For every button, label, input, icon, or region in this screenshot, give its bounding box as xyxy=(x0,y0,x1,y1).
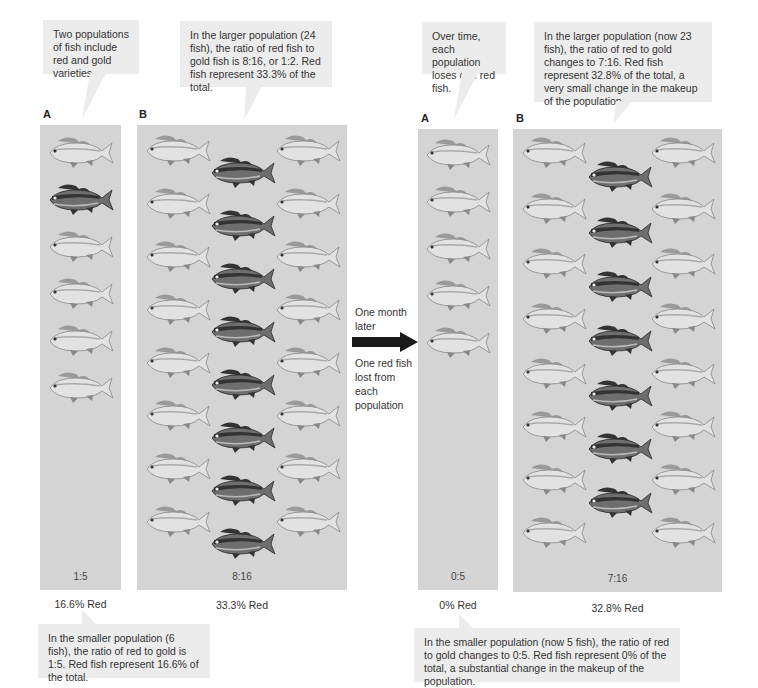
callout-intro-before: Two populations of fish include red and … xyxy=(43,20,139,74)
gold-fish-icon xyxy=(648,515,718,549)
ratio-label: 8:16 xyxy=(137,571,347,582)
gold-fish-icon xyxy=(273,398,343,432)
gold-fish-icon xyxy=(143,186,213,220)
gold-fish-icon xyxy=(648,356,718,390)
callout-pointer xyxy=(240,86,270,122)
right-arrow-icon xyxy=(352,332,418,352)
gold-fish-icon xyxy=(519,191,589,225)
gold-fish-icon xyxy=(273,292,343,326)
red-fish-icon xyxy=(208,367,278,401)
gold-fish-icon xyxy=(423,278,493,312)
red-fish-icon xyxy=(208,526,278,560)
gold-fish-icon xyxy=(143,133,213,167)
gold-fish-icon xyxy=(519,135,589,169)
gold-fish-icon xyxy=(273,239,343,273)
red-fish-icon xyxy=(585,215,655,249)
red-fish-icon xyxy=(46,182,116,216)
gold-fish-icon xyxy=(143,345,213,379)
gold-fish-icon xyxy=(46,229,116,263)
population-a-before-panel: 1:5 xyxy=(40,125,121,590)
gold-fish-icon xyxy=(273,504,343,538)
gold-fish-icon xyxy=(519,515,589,549)
percent-red-label: 33.3% Red xyxy=(137,599,347,611)
gold-fish-icon xyxy=(273,186,343,220)
gold-fish-icon xyxy=(143,239,213,273)
red-fish-icon xyxy=(585,485,655,519)
ratio-label: 0:5 xyxy=(418,571,498,582)
gold-fish-icon xyxy=(423,184,493,218)
population-b-before-panel: 8:16 xyxy=(137,125,347,590)
gold-fish-icon xyxy=(648,191,718,225)
callout-small-before-text: In the smaller population (6 fish), the … xyxy=(48,632,199,683)
panel-b-after-letter: B xyxy=(516,112,524,124)
red-fish-icon xyxy=(208,208,278,242)
ratio-label: 1:5 xyxy=(40,571,121,582)
gold-fish-icon xyxy=(273,133,343,167)
red-fish-icon xyxy=(585,323,655,357)
population-b-after-panel: 7:16 xyxy=(513,129,722,592)
gold-fish-icon xyxy=(519,462,589,496)
callout-large-after: In the larger population (now 23 fish), … xyxy=(534,22,712,102)
transition-bottom-text: One red fish lost from each population xyxy=(355,356,415,412)
panel-a-before-letter: A xyxy=(43,108,51,120)
callout-pointer xyxy=(78,73,108,121)
red-fish-icon xyxy=(585,269,655,303)
gold-fish-icon xyxy=(46,323,116,357)
gold-fish-icon xyxy=(519,356,589,390)
gold-fish-icon xyxy=(143,504,213,538)
gold-fish-icon xyxy=(143,451,213,485)
callout-pointer xyxy=(612,101,642,125)
red-fish-icon xyxy=(585,378,655,412)
callout-large-after-text: In the larger population (now 23 fish), … xyxy=(544,30,698,107)
gold-fish-icon xyxy=(648,135,718,169)
gold-fish-icon xyxy=(46,276,116,310)
gold-fish-icon xyxy=(46,135,116,169)
transition-top-text: One month later xyxy=(355,305,415,333)
callout-small-before: In the smaller population (6 fish), the … xyxy=(38,624,210,678)
red-fish-icon xyxy=(208,420,278,454)
callout-intro-before-text: Two populations of fish include red and … xyxy=(53,28,129,79)
gold-fish-icon xyxy=(423,137,493,171)
callout-pointer xyxy=(450,73,480,121)
callout-intro-after: Over time, each population loses one red… xyxy=(422,22,506,74)
gold-fish-icon xyxy=(648,409,718,443)
red-fish-icon xyxy=(585,159,655,193)
gold-fish-icon xyxy=(423,325,493,359)
callout-large-before: In the larger population (24 fish), the … xyxy=(180,21,332,87)
callout-small-after: In the smaller population (now 5 fish), … xyxy=(414,628,680,682)
gold-fish-icon xyxy=(519,409,589,443)
percent-red-label: 16.6% Red xyxy=(40,598,121,610)
gold-fish-icon xyxy=(273,451,343,485)
gold-fish-icon xyxy=(648,301,718,335)
red-fish-icon xyxy=(208,261,278,295)
gold-fish-icon xyxy=(143,292,213,326)
percent-red-label: 0% Red xyxy=(418,599,498,611)
callout-large-before-text: In the larger population (24 fish), the … xyxy=(190,29,321,93)
red-fish-icon xyxy=(208,473,278,507)
callout-small-after-text: In the smaller population (now 5 fish), … xyxy=(424,636,669,687)
gold-fish-icon xyxy=(519,246,589,280)
panel-b-before-letter: B xyxy=(139,108,147,120)
ratio-label: 7:16 xyxy=(513,573,722,584)
red-fish-icon xyxy=(208,314,278,348)
gold-fish-icon xyxy=(519,301,589,335)
gold-fish-icon xyxy=(648,246,718,280)
gold-fish-icon xyxy=(143,398,213,432)
percent-red-label: 32.8% Red xyxy=(513,602,722,614)
red-fish-icon xyxy=(208,155,278,189)
population-a-after-panel: 0:5 xyxy=(418,129,498,590)
gold-fish-icon xyxy=(648,462,718,496)
panel-a-after-letter: A xyxy=(421,112,429,124)
gold-fish-icon xyxy=(273,345,343,379)
gold-fish-icon xyxy=(46,370,116,404)
red-fish-icon xyxy=(585,431,655,465)
gold-fish-icon xyxy=(423,231,493,265)
